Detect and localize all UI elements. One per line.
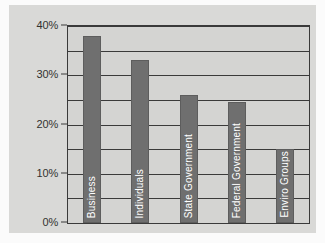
bar-label: Business	[87, 176, 97, 218]
y-axis-tick-label: 30%	[37, 68, 58, 80]
y-axis-tick-label: 10%	[37, 167, 58, 179]
gridline	[68, 223, 309, 224]
bar-label: Individuals	[135, 169, 145, 218]
bar-label: Federal Government	[232, 123, 242, 218]
bar-label: State Government	[184, 134, 194, 218]
bar-label: Enviro Groups	[280, 151, 290, 218]
bar: Federal Government	[228, 102, 246, 223]
bar: State Government	[180, 95, 198, 223]
plot-area: BusinessIndividualsState GovernmentFeder…	[67, 25, 310, 224]
bar: Business	[83, 36, 101, 223]
y-axis-tick-label: 40%	[37, 19, 58, 31]
bar: Enviro Groups	[276, 149, 294, 223]
chart-canvas: 0%10%20%30%40% BusinessIndividualsState …	[9, 5, 316, 233]
chart-image: 0%10%20%30%40% BusinessIndividualsState …	[0, 0, 325, 243]
bar: Individuals	[131, 60, 149, 223]
y-axis-tick-label: 0%	[43, 216, 59, 228]
y-axis-tick-label: 20%	[37, 118, 58, 130]
y-axis: 0%10%20%30%40%	[9, 25, 67, 224]
bar-series: BusinessIndividualsState GovernmentFeder…	[68, 26, 309, 223]
